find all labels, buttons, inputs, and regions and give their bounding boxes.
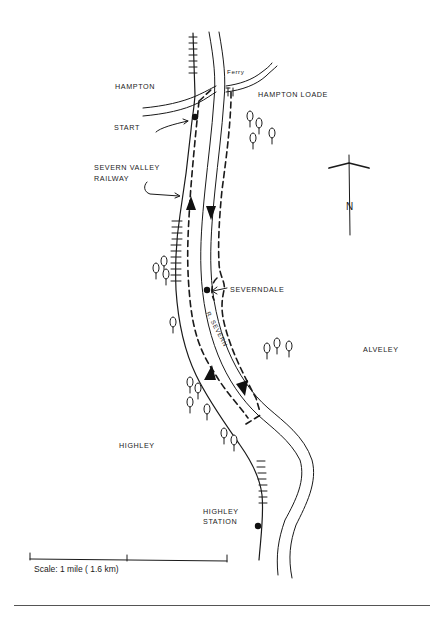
label-highley: HIGHLEY [119, 441, 155, 450]
start-leader-arrow [156, 119, 188, 132]
arrow-north-upper [186, 196, 196, 210]
tree-icon [221, 428, 227, 444]
tree-icon [163, 269, 169, 285]
label-highley-station-line1: HIGHLEY [203, 507, 239, 516]
severndale-point [204, 287, 210, 293]
tree-icon [247, 111, 253, 127]
label-severndale: SEVERNDALE [230, 285, 284, 294]
north-arrow: N [329, 155, 369, 235]
tree-icon [195, 383, 201, 399]
tree-icon [286, 341, 292, 357]
tree-icon [250, 133, 256, 149]
road-crossing [143, 63, 277, 116]
route-arrows [186, 196, 248, 396]
label-railway-line2: RAILWAY [94, 174, 129, 183]
walk-map: N HAMPTON Ferry HAMPTON LOADE START SEVE… [0, 0, 433, 625]
tree-icon [274, 338, 280, 354]
arrow-south-upper [206, 206, 216, 220]
label-ferry: Ferry [227, 68, 245, 75]
tree-icon [170, 317, 176, 333]
railway-leader-arrow [145, 182, 180, 198]
highley-station-point [255, 523, 261, 529]
tree-icon [256, 118, 262, 134]
tree-icon [264, 343, 270, 359]
north-label: N [346, 201, 353, 212]
label-hampton-loade: HAMPTON LOADE [258, 90, 328, 99]
footer-divider [14, 605, 430, 606]
label-hampton: HAMPTON [115, 82, 155, 91]
severndale-leader-arrow [212, 287, 227, 294]
tree-icon [187, 397, 193, 413]
arrow-south-lower [236, 380, 248, 396]
river-severn [201, 32, 314, 578]
tree-icon [153, 263, 159, 279]
severn-valley-railway [171, 33, 267, 560]
tree-icon [187, 377, 193, 393]
label-alveley: ALVELEY [363, 345, 399, 354]
start-point [192, 114, 198, 120]
tree-icon [231, 435, 237, 451]
tree-icon [204, 404, 210, 420]
label-railway-line1: SEVERN VALLEY [94, 163, 160, 172]
tree-icon [269, 128, 275, 144]
scale-label: Scale: 1 mile ( 1.6 km) [34, 564, 119, 574]
scale-bar: Scale: 1 mile ( 1.6 km) [30, 553, 227, 574]
label-start: START [114, 123, 140, 132]
label-highley-station-line2: STATION [203, 517, 237, 526]
